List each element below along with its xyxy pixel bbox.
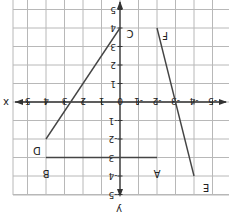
y-tick-label: 2	[110, 60, 116, 70]
point-label-f: F	[162, 30, 168, 41]
y-tick-label: -2	[109, 134, 118, 144]
y-tick-label: -5	[109, 190, 118, 200]
x-axis-arrow-left-icon	[15, 99, 23, 105]
y-tick-label: 3	[110, 42, 116, 52]
x-tick-label: 3	[62, 96, 68, 106]
point-label-e: E	[203, 182, 209, 193]
coordinate-grid-figure: xy-5-4-3-2-1012345-5-4-3-2-112345ABCDEF	[0, 0, 229, 220]
y-axis-label: y	[116, 204, 122, 215]
origin-label: 0	[117, 96, 123, 106]
y-axis-arrow-top-icon	[117, 1, 123, 9]
x-tick-label: -4	[189, 96, 198, 106]
point-label-a: A	[153, 168, 160, 179]
point-label-b: B	[42, 168, 49, 179]
x-tick-label: -2	[153, 96, 162, 106]
y-tick-label: -4	[108, 171, 117, 181]
x-tick-label: 2	[80, 96, 86, 106]
y-tick-label: 1	[110, 79, 116, 89]
point-labels: ABCDEF	[33, 28, 209, 193]
x-tick-label: 1	[99, 96, 105, 106]
x-tick-label: 5	[25, 96, 31, 106]
coordinate-plane: xy-5-4-3-2-1012345-5-4-3-2-112345ABCDEF	[0, 0, 229, 220]
x-axis-arrow-right-icon	[219, 99, 227, 105]
x-tick-label: -1	[134, 96, 143, 106]
x-axis-label: x	[3, 97, 9, 108]
point-label-c: C	[126, 28, 133, 39]
point-label-d: D	[33, 145, 41, 156]
y-tick-label: 4	[110, 23, 116, 33]
x-tick-label: -5	[208, 96, 217, 106]
x-tick-label: 4	[43, 96, 49, 106]
y-tick-label: 5	[110, 5, 116, 15]
y-tick-label: -1	[109, 116, 118, 126]
